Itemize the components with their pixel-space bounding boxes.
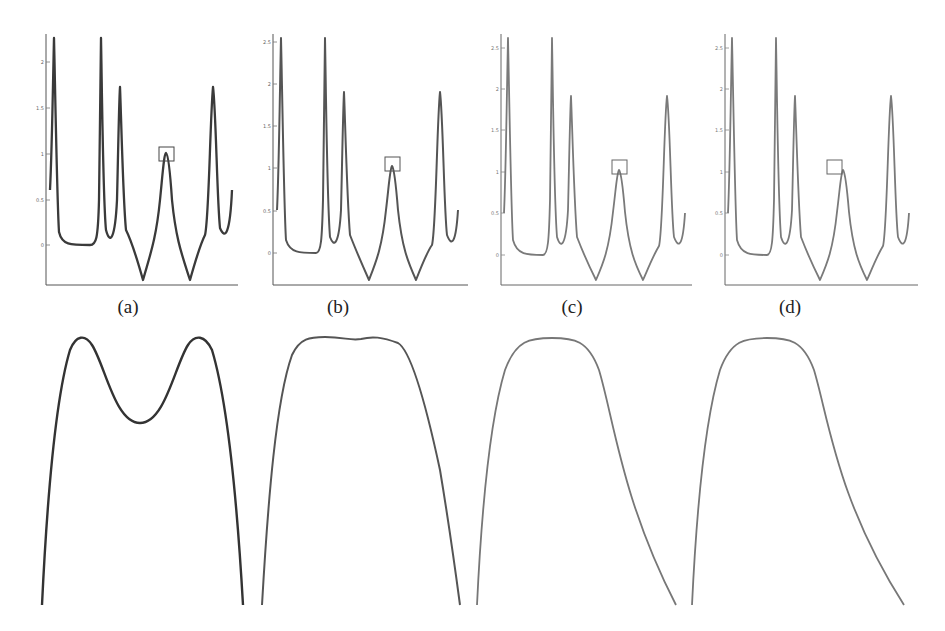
svg-text:2.5: 2.5 — [715, 45, 723, 51]
curve-d — [728, 38, 909, 280]
zoom-curve-b — [262, 337, 460, 605]
yticks-a — [46, 62, 50, 245]
svg-text:0.5: 0.5 — [36, 197, 44, 203]
svg-text:0.5: 0.5 — [715, 210, 723, 216]
figure-canvas: 21.51 0.50 2.521.5 10.50 — [0, 0, 945, 631]
svg-text:1: 1 — [496, 169, 499, 175]
svg-text:0.5: 0.5 — [263, 208, 271, 214]
svg-text:2: 2 — [720, 86, 723, 92]
plot-c: 2.521.5 10.50 — [491, 34, 692, 285]
panel-label-b: (b) — [327, 296, 349, 318]
panel-label-c: (c) — [561, 296, 582, 318]
yticks-c — [501, 48, 505, 255]
zoom-curve-d — [692, 338, 904, 605]
svg-text:0: 0 — [720, 252, 723, 258]
curve-c — [504, 38, 685, 280]
ytick-labels-a: 21.51 0.50 — [36, 59, 44, 248]
svg-text:0: 0 — [496, 252, 499, 258]
panel-label-a: (a) — [117, 296, 138, 318]
zoom-curve-a — [42, 338, 243, 605]
highlight-box-d — [827, 160, 842, 174]
figure: 21.51 0.50 2.521.5 10.50 — [0, 0, 945, 631]
ytick-labels-d: 2.521.5 10.50 — [715, 45, 723, 258]
svg-text:1.5: 1.5 — [36, 105, 44, 111]
svg-text:1.5: 1.5 — [263, 123, 271, 129]
svg-text:2: 2 — [268, 81, 271, 87]
svg-text:1: 1 — [41, 151, 44, 157]
svg-text:0: 0 — [268, 250, 271, 256]
svg-text:2: 2 — [41, 59, 44, 65]
curve-b — [277, 38, 458, 280]
svg-text:1.5: 1.5 — [491, 127, 499, 133]
svg-text:0: 0 — [41, 242, 44, 248]
axes-b — [273, 34, 468, 285]
yticks-d — [725, 48, 729, 255]
ytick-labels-b: 2.521.5 10.50 — [263, 39, 271, 256]
svg-text:1.5: 1.5 — [715, 127, 723, 133]
curve-a — [50, 38, 232, 280]
plot-a: 21.51 0.50 — [36, 34, 238, 285]
axes-d — [725, 34, 918, 285]
zoom-curve-c — [477, 338, 676, 605]
ytick-labels-c: 2.521.5 10.50 — [491, 45, 499, 258]
svg-text:2.5: 2.5 — [263, 39, 271, 45]
plot-b: 2.521.5 10.50 — [263, 34, 468, 285]
svg-text:1: 1 — [268, 165, 271, 171]
svg-text:2: 2 — [496, 86, 499, 92]
panel-label-d: (d) — [779, 296, 801, 318]
yticks-b — [273, 42, 277, 253]
svg-text:1: 1 — [720, 169, 723, 175]
svg-text:2.5: 2.5 — [491, 45, 499, 51]
svg-text:0.5: 0.5 — [491, 210, 499, 216]
plot-d: 2.521.5 10.50 — [715, 34, 918, 285]
